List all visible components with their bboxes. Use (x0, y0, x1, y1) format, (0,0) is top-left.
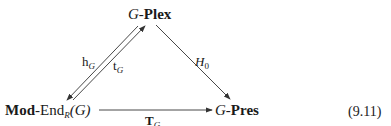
equation-number: (9.11) (348, 105, 381, 119)
node-mod-end: Mod-EndR(G) (5, 103, 91, 118)
arrow-hG (67, 26, 138, 100)
arrow-H0 (156, 25, 230, 99)
label-tG: tG (113, 59, 123, 72)
label-H0: H0 (195, 55, 209, 68)
node-g-plex: G-Plex (128, 7, 171, 22)
label-hG: hG (82, 55, 95, 68)
label-TG: TG (145, 114, 160, 126)
node-g-pres: G-Pres (215, 103, 259, 118)
